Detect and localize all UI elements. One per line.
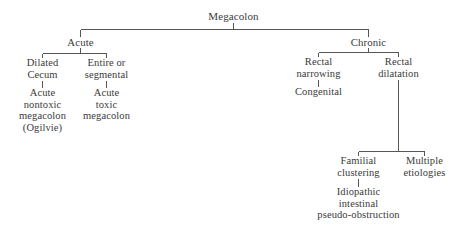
node-acute-toxic-megacolon: Acute toxic megacolon — [64, 87, 149, 122]
node-idiopathic-line3: pseudo-obstruction — [294, 209, 423, 221]
node-idiopathic-intestinal-pseudo-obstruction: Idiopathic intestinal pseudo-obstruction — [294, 186, 423, 221]
node-multiple-etiologies-line2: etiologies — [387, 167, 462, 179]
node-rectal-narrowing-line2: narrowing — [281, 68, 356, 80]
node-rectal-narrowing-line1: Rectal — [281, 56, 356, 68]
node-idiopathic-line2: intestinal — [294, 198, 423, 210]
node-familial-clustering: Familial clustering — [321, 155, 396, 178]
node-acute-nontoxic-line4: (Ogilvie) — [0, 122, 85, 134]
node-congenital: Congenital — [281, 86, 356, 98]
node-familial-clustering-line1: Familial — [321, 155, 396, 167]
node-acute: Acute — [45, 37, 116, 49]
node-entire-or-segmental: Entire or segmental — [69, 57, 144, 80]
node-multiple-etiologies: Multiple etiologies — [387, 155, 462, 178]
node-acute-label: Acute — [45, 37, 116, 49]
node-chronic: Chronic — [333, 37, 404, 49]
node-entire-segmental-line1: Entire or — [69, 57, 144, 69]
node-rectal-dilatation: Rectal dilatation — [361, 56, 436, 79]
node-rectal-dilatation-line2: dilatation — [361, 68, 436, 80]
node-rectal-dilatation-line1: Rectal — [361, 56, 436, 68]
node-acute-toxic-line1: Acute — [64, 87, 149, 99]
node-idiopathic-line1: Idiopathic — [294, 186, 423, 198]
node-multiple-etiologies-line1: Multiple — [387, 155, 462, 167]
node-entire-segmental-line2: segmental — [69, 69, 144, 81]
node-rectal-narrowing: Rectal narrowing — [281, 56, 356, 79]
node-acute-toxic-line2: toxic — [64, 99, 149, 111]
node-familial-clustering-line2: clustering — [321, 167, 396, 179]
node-chronic-label: Chronic — [333, 37, 404, 49]
node-congenital-label: Congenital — [281, 86, 356, 98]
node-acute-toxic-line3: megacolon — [64, 110, 149, 122]
node-megacolon-label: Megacolon — [183, 10, 284, 22]
megacolon-flowchart: Megacolon Acute Chronic Dilated Cecum Ac… — [0, 0, 467, 242]
node-megacolon: Megacolon — [183, 10, 284, 22]
